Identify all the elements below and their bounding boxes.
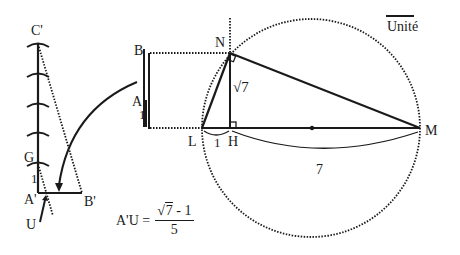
formula-a-prime-u: A'U = √7 - 1 5: [116, 203, 194, 238]
diagram-canvas: Unité C' G 1 A' B' U B A 1 N L H M √7 1 …: [0, 0, 460, 255]
dotted-line-g-u: [38, 164, 53, 216]
numerator-rest: - 1: [173, 203, 192, 218]
label-m: M: [425, 124, 437, 138]
label-hm-length: 7: [316, 163, 323, 177]
label-n: N: [215, 36, 225, 50]
brace-hm: [232, 131, 418, 148]
label-lh-length: 1: [214, 136, 221, 149]
label-b-prime: B': [84, 195, 96, 209]
right-construction: [202, 18, 420, 237]
label-a-prime: A': [24, 193, 37, 207]
formula-lhs: A'U =: [116, 213, 150, 229]
dotted-line-c-prime-b-prime: [38, 44, 82, 193]
unit-label: Unité: [387, 20, 418, 34]
transfer-arrow: [55, 82, 137, 192]
right-angle-n-icon: [228, 54, 236, 62]
label-b: B: [134, 44, 143, 58]
arrowhead-icon: [55, 183, 63, 192]
geometry-drawing: [0, 0, 460, 255]
label-h: H: [228, 135, 238, 149]
sqrt-icon: √: [157, 203, 165, 219]
formula-numerator: √7 - 1: [155, 203, 193, 221]
sqrt-argument: 7: [165, 202, 173, 218]
u-arrow: [40, 200, 45, 222]
label-c-prime: C': [31, 24, 43, 38]
formula-fraction: √7 - 1 5: [155, 203, 193, 238]
formula-denominator: 5: [171, 221, 178, 238]
label-g: G: [24, 151, 34, 165]
center-point: [310, 126, 314, 130]
label-l: L: [188, 135, 197, 149]
segment-n-m: [230, 53, 420, 128]
label-nh-length: √7: [233, 80, 249, 95]
label-unit-left: 1: [31, 172, 38, 185]
label-u: U: [26, 218, 36, 232]
label-unit-middle: 1: [139, 108, 146, 121]
unit-bar: [386, 15, 414, 17]
segment-l-n: [202, 53, 230, 128]
